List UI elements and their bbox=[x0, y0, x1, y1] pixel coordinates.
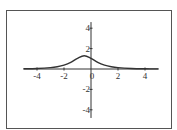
y-tick-label: 4 bbox=[86, 23, 91, 33]
y-tick-label: 2 bbox=[86, 44, 91, 54]
x-tick-label: 4 bbox=[143, 71, 148, 81]
x-tick-label: -2 bbox=[60, 71, 68, 81]
x-tick-label: -4 bbox=[33, 71, 41, 81]
y-tick-label: -4 bbox=[83, 105, 91, 115]
x-tick-label: 0 bbox=[90, 71, 95, 81]
x-tick-label: 2 bbox=[116, 71, 121, 81]
y-tick-label: -2 bbox=[83, 84, 91, 94]
plot-canvas: -4-2024-4-224 bbox=[0, 0, 177, 130]
